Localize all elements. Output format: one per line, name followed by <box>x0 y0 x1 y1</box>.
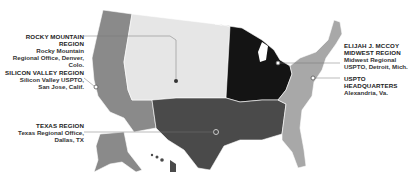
hawaii <box>151 154 176 172</box>
midwest-label: ELIJAH J. MCCOY MIDWEST REGION Midwest R… <box>344 42 416 70</box>
denver-office-marker <box>174 79 178 83</box>
detroit-office-marker <box>276 61 280 65</box>
san-jose-office-marker <box>94 85 98 89</box>
rocky-mountain-label: ROCKY MOUNTAIN REGION Rocky Mountain Reg… <box>2 33 84 68</box>
silicon-valley-label: SILICON VALLEY REGION Silicon Valley USP… <box>2 69 84 90</box>
rocky-mountain-region <box>124 14 230 100</box>
east-region <box>278 20 342 168</box>
alexandria-office-marker <box>311 76 315 80</box>
texas-region <box>152 98 286 170</box>
alaska <box>94 132 142 172</box>
leader-line-silicon <box>84 78 94 86</box>
texas-label: TEXAS REGION Texas Regional Office, Dall… <box>2 122 84 143</box>
headquarters-label: USPTO HEADQUARTERS Alexandria, Va. <box>344 75 416 96</box>
